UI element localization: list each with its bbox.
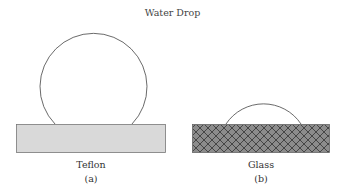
teflon-label: Teflon [51,159,131,170]
panel-a-label: (a) [51,173,131,184]
glass-surface [193,125,330,153]
water-drop-glass [226,104,301,124]
teflon-surface [17,125,166,153]
water-drop-teflon [40,33,147,124]
glass-label: Glass [221,159,301,170]
panel-b-label: (b) [221,173,301,184]
